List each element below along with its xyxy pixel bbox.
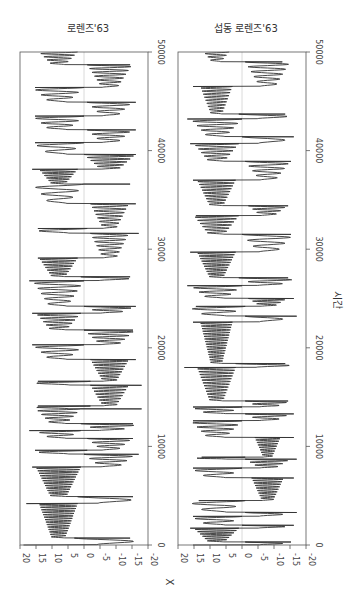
- chart-canvas: 20151050-5-10-15-20010000200003000040000…: [0, 0, 358, 603]
- x-tick-label: -5: [259, 553, 268, 561]
- x-tick-label: -15: [291, 553, 300, 566]
- x-tick-label: 20: [179, 553, 188, 563]
- x-tick-label: 15: [195, 553, 204, 563]
- time-tick-label: 0: [156, 542, 165, 547]
- x-axis-label: X: [164, 579, 175, 586]
- x-tick-label: 15: [37, 553, 46, 563]
- x-tick-label: -20: [149, 553, 158, 566]
- time-tick-label: 10000: [156, 434, 165, 459]
- trajectory-line: [184, 52, 296, 545]
- x-tick-label: 0: [243, 553, 252, 558]
- time-axis-label: 시간: [332, 291, 343, 309]
- x-tick-label: -10: [275, 553, 284, 566]
- x-tick-label: 10: [53, 553, 62, 563]
- time-tick-label: 0: [314, 542, 323, 547]
- time-tick-label: 40000: [314, 138, 323, 163]
- x-tick-label: -15: [133, 553, 142, 566]
- time-tick-label: 30000: [156, 236, 165, 261]
- x-tick-label: 0: [85, 553, 94, 558]
- x-tick-label: 10: [211, 553, 220, 563]
- x-tick-label: -10: [117, 553, 126, 566]
- x-tick-label: -5: [101, 553, 110, 561]
- time-tick-label: 20000: [314, 335, 323, 360]
- x-tick-label: -20: [307, 553, 316, 566]
- trajectory-line: [24, 52, 142, 545]
- x-tick-label: 5: [69, 553, 78, 558]
- time-tick-label: 40000: [156, 138, 165, 163]
- x-tick-label: 5: [227, 553, 236, 558]
- time-tick-label: 50000: [156, 39, 165, 64]
- time-tick-label: 50000: [314, 39, 323, 64]
- time-tick-label: 10000: [314, 434, 323, 459]
- time-tick-label: 20000: [156, 335, 165, 360]
- time-tick-label: 30000: [314, 236, 323, 261]
- x-tick-label: 20: [21, 553, 30, 563]
